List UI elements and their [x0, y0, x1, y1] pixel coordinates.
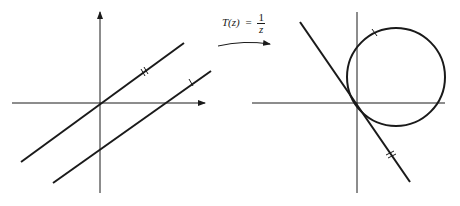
- mapping-label: T(z) = 1 z: [222, 12, 265, 35]
- equals-sign: =: [245, 16, 251, 28]
- left-panel: [12, 12, 211, 193]
- right-panel: [252, 12, 445, 193]
- mapping-function-name: T(z): [222, 16, 240, 28]
- fraction: 1 z: [257, 12, 265, 35]
- mapping-arrow: [218, 42, 270, 46]
- parallel-line: [53, 71, 211, 183]
- fraction-denominator: z: [257, 24, 265, 35]
- image-line: [300, 22, 410, 182]
